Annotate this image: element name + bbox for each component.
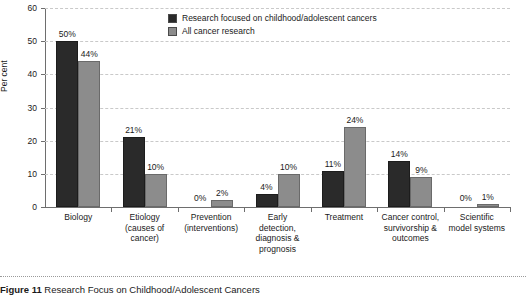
x-tick	[510, 207, 511, 212]
y-tick-label: 60	[12, 4, 37, 12]
category-label: Etiology (causes of cancer)	[111, 212, 177, 244]
bar-value-label: 10%	[275, 163, 303, 172]
bar-group: 0%1%	[455, 8, 499, 207]
category-label: Scientific model systems	[444, 212, 510, 233]
bar-value-label: 44%	[75, 50, 103, 59]
category-label: Early detection, diagnosis & prognosis	[244, 212, 310, 254]
bar-value-label: 10%	[142, 163, 170, 172]
figure-container: Per cent 0102030405060 50%44%21%10%0%2%4…	[0, 0, 526, 297]
legend-label-all-cancer: All cancer research	[182, 26, 255, 37]
legend-swatch-dark-icon	[168, 14, 177, 23]
legend-item-all-cancer: All cancer research	[168, 26, 377, 37]
bar-group: 14%9%	[388, 8, 432, 207]
bar-value-label: 2%	[208, 189, 236, 198]
bar-value-label: 24%	[341, 116, 369, 125]
caption-text: Research Focus on Childhood/Adolescent C…	[44, 284, 259, 295]
bar-value-label: 21%	[120, 126, 148, 135]
bar-value-label: 11%	[319, 160, 347, 169]
y-tick-label: 40	[12, 70, 37, 78]
bar-all-cancer	[145, 174, 167, 207]
bar-all-cancer	[211, 200, 233, 207]
y-tick	[41, 207, 45, 208]
y-axis-label: Per cent	[0, 60, 9, 92]
y-tick-label: 10	[12, 170, 37, 178]
bar-all-cancer	[410, 177, 432, 207]
bar-all-cancer	[477, 204, 499, 207]
bar-childhood	[322, 171, 344, 207]
bar-all-cancer	[344, 127, 366, 207]
category-label: Treatment	[311, 212, 377, 223]
bar-value-label: 9%	[407, 166, 435, 175]
caption-number: Figure 11	[0, 284, 42, 295]
category-label: Cancer control, survivorship & outcomes	[377, 212, 443, 244]
figure-caption: Figure 11 Research Focus on Childhood/Ad…	[0, 284, 526, 295]
y-tick-label: 20	[12, 137, 37, 145]
bar-value-label: 1%	[474, 193, 502, 202]
bar-all-cancer	[278, 174, 300, 207]
bar-childhood	[256, 194, 278, 207]
x-axis-line	[45, 207, 511, 208]
bar-all-cancer	[78, 61, 100, 207]
chart-legend: Research focused on childhood/adolescent…	[168, 13, 377, 39]
legend-item-childhood: Research focused on childhood/adolescent…	[168, 13, 377, 24]
legend-label-childhood: Research focused on childhood/adolescent…	[182, 13, 377, 24]
bar-value-label: 14%	[385, 150, 413, 159]
bar-group: 50%44%	[56, 8, 100, 207]
bar-childhood	[123, 137, 145, 207]
y-tick-label: 30	[12, 104, 37, 112]
bar-value-label: 4%	[253, 183, 281, 192]
category-label: Prevention (interventions)	[178, 212, 244, 233]
caption-divider	[0, 276, 526, 277]
y-tick-label: 50	[12, 37, 37, 45]
y-tick-label: 0	[12, 203, 37, 211]
bar-group: 21%10%	[123, 8, 167, 207]
category-label: Biology	[45, 212, 111, 223]
bar-childhood	[56, 41, 78, 207]
bar-value-label: 50%	[53, 30, 81, 39]
legend-swatch-gray-icon	[168, 27, 177, 36]
